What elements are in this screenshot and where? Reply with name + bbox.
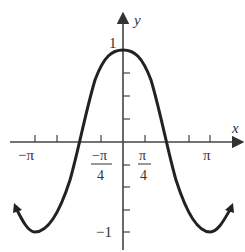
y-tick-one: 1 (109, 35, 117, 51)
x-tick-neg-pi: −π (18, 147, 34, 163)
y-ticks (123, 73, 130, 232)
y-tick-neg-one: −1 (96, 224, 112, 240)
y-axis-label: y (132, 12, 141, 28)
x-axis-label: x (231, 120, 239, 136)
x-tick-neg-pi-4-num: −π (92, 148, 107, 163)
curve-arrow-left (13, 203, 22, 213)
x-tick-pi-4-num: π (139, 148, 146, 163)
x-tick-pi-4-den: 4 (140, 168, 147, 183)
cosine-graph: x y −π π −π 4 π 4 1 −1 (0, 0, 245, 252)
curve-arrow-right (225, 203, 234, 213)
x-tick-neg-pi-4-den: 4 (97, 168, 104, 183)
x-tick-pi: π (203, 147, 211, 163)
plot-area: x y −π π −π 4 π 4 1 −1 (0, 0, 245, 252)
